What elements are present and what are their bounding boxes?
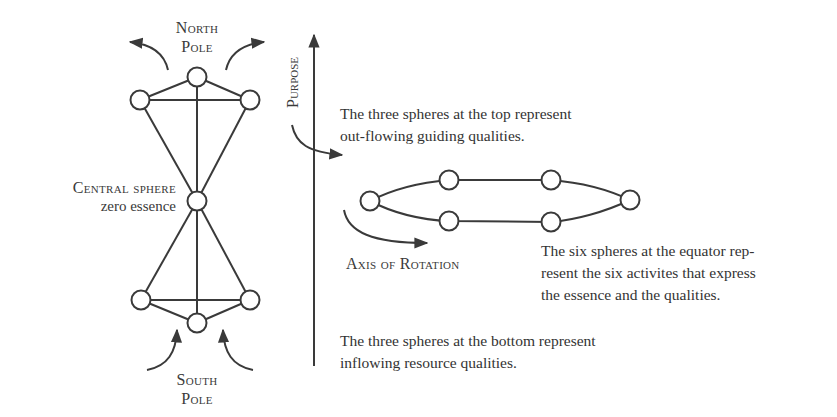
south-arrow-left xyxy=(147,330,177,370)
north-pole-label: North Pole xyxy=(157,18,237,56)
sphere-south-bottom xyxy=(188,314,207,333)
south-pole-label: South Pole xyxy=(157,370,237,408)
sphere-equator-left xyxy=(361,192,380,211)
south-pole-line2: Pole xyxy=(157,389,237,408)
north-pole-line2: Pole xyxy=(157,37,237,56)
sphere-south-left xyxy=(132,291,151,310)
central-sphere-title: Central sphere xyxy=(20,178,176,197)
top-description-line: The three spheres at the top represent xyxy=(340,103,572,125)
sphere-equator-upper-1 xyxy=(440,171,459,190)
equator-description-line: resent the six activites that express xyxy=(541,262,756,284)
sphere-south-right xyxy=(241,291,260,310)
bottom-description: The three spheres at the bottom represen… xyxy=(340,330,596,374)
bottom-description-line: inflowing resource qualities. xyxy=(340,352,596,374)
sphere-equator-right xyxy=(621,191,640,210)
top-description: The three spheres at the top represent o… xyxy=(340,103,572,147)
sphere-equator-lower-1 xyxy=(440,212,459,231)
equator-description: The six spheres at the equator rep- rese… xyxy=(541,240,756,306)
north-pole-line1: North xyxy=(157,18,237,37)
equator-description-line: The six spheres at the equator rep- xyxy=(541,240,756,262)
south-pole-line1: South xyxy=(157,370,237,389)
central-sphere-subtitle: zero essence xyxy=(20,197,176,216)
sphere-equator-upper-2 xyxy=(542,171,561,190)
sphere-north-left xyxy=(131,91,150,110)
central-sphere-label: Central sphere zero essence xyxy=(20,178,176,216)
rotation-arrow xyxy=(344,210,427,243)
equator-description-line: the essence and the qualities. xyxy=(541,284,756,306)
axis-of-rotation-label: Axis of Rotation xyxy=(346,254,460,273)
sphere-north-top xyxy=(188,68,207,87)
equator-ring xyxy=(370,180,630,222)
sphere-equator-lower-2 xyxy=(542,213,561,232)
sphere-north-right xyxy=(241,91,260,110)
bottom-description-line: The three spheres at the bottom represen… xyxy=(340,330,596,352)
sphere-central xyxy=(188,192,207,211)
purpose-label: Purpose xyxy=(284,57,302,108)
top-description-line: out-flowing guiding qualities. xyxy=(340,125,572,147)
top-pointer-arrow xyxy=(292,125,342,155)
south-arrow-right xyxy=(223,330,253,370)
